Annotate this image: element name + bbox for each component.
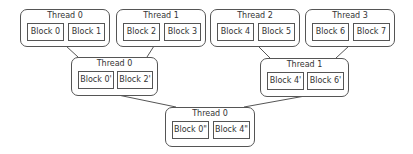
block-box: Block 7 [353, 23, 390, 41]
thread-box-level0-thread2: Thread 2 Block 4 Block 5 [210, 9, 300, 47]
block-box: Block 4" [213, 121, 250, 139]
thread-box-level1-thread1: Thread 1 Block 4' Block 6' [260, 58, 349, 97]
block-box: Block 0' [78, 71, 114, 89]
thread-title: Thread 1 [261, 60, 348, 70]
connector-l1t1-to-l2t0 [244, 96, 305, 107]
thread-box-level0-thread0: Thread 0 Block 0 Block 1 [20, 9, 110, 47]
connector-l0t0-to-l1t0 [66, 46, 78, 57]
block-box: Block 3 [164, 23, 201, 41]
thread-title: Thread 0 [21, 11, 109, 21]
thread-title: Thread 2 [211, 11, 299, 21]
thread-title: Thread 3 [306, 11, 394, 21]
thread-title: Thread 1 [117, 11, 205, 21]
connector-l1t0-to-l2t0 [118, 95, 176, 107]
block-box: Block 1 [68, 23, 105, 41]
block-box: Block 2 [123, 23, 160, 41]
block-box: Block 4 [217, 23, 254, 41]
block-box: Block 0" [172, 121, 209, 139]
thread-box-level2-thread0: Thread 0 Block 0" Block 4" [165, 107, 255, 147]
connector-l0t1-to-l1t0 [147, 46, 154, 57]
connector-l0t3-to-l1t1 [336, 46, 349, 58]
block-box: Block 6 [312, 23, 349, 41]
block-box: Block 6' [307, 72, 344, 90]
block-box: Block 5 [258, 23, 295, 41]
block-box: Block 0 [27, 23, 64, 41]
connector-l0t2-to-l1t1 [258, 46, 270, 58]
block-box: Block 4' [267, 72, 304, 90]
block-box: Block 2' [117, 71, 153, 89]
thread-title: Thread 0 [72, 59, 157, 69]
thread-box-level1-thread0: Thread 0 Block 0' Block 2' [71, 57, 158, 96]
thread-title: Thread 0 [166, 109, 254, 119]
thread-box-level0-thread3: Thread 3 Block 6 Block 7 [305, 9, 395, 47]
thread-box-level0-thread1: Thread 1 Block 2 Block 3 [116, 9, 206, 47]
